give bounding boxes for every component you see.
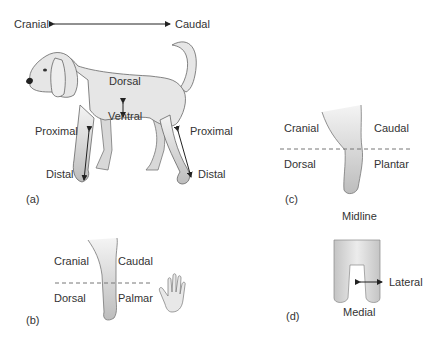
front-legs-illustration	[334, 240, 382, 303]
label-distal-hind: Distal	[198, 168, 226, 181]
label-ventral: Ventral	[108, 110, 142, 123]
label-plantar: Plantar	[374, 158, 409, 171]
label-dorsal-b: Dorsal	[54, 292, 86, 305]
hindlimb-illustration	[280, 105, 412, 194]
label-cranial: Cranial	[14, 18, 49, 31]
label-dorsal: Dorsal	[109, 75, 141, 88]
label-palmar: Palmar	[118, 292, 153, 305]
label-midline: Midline	[342, 210, 377, 223]
caption-a: (a)	[26, 193, 39, 206]
label-caudal-b: Caudal	[118, 255, 153, 268]
caption-b: (b)	[26, 314, 39, 327]
label-proximal-hind: Proximal	[190, 125, 233, 138]
caption-d: (d)	[286, 310, 299, 323]
label-cranial-b: Cranial	[54, 255, 89, 268]
label-dorsal-c: Dorsal	[284, 158, 316, 171]
dog-illustration	[26, 24, 196, 184]
label-proximal-front: Proximal	[35, 125, 78, 138]
label-caudal: Caudal	[175, 18, 210, 31]
caption-c: (c)	[285, 193, 298, 206]
label-distal-front: Distal	[46, 168, 74, 181]
label-lateral: Lateral	[389, 276, 423, 289]
forelimb-illustration	[55, 238, 185, 320]
hand-icon	[159, 274, 185, 312]
label-medial: Medial	[343, 306, 375, 319]
label-cranial-c: Cranial	[284, 122, 319, 135]
label-caudal-c: Caudal	[374, 122, 409, 135]
